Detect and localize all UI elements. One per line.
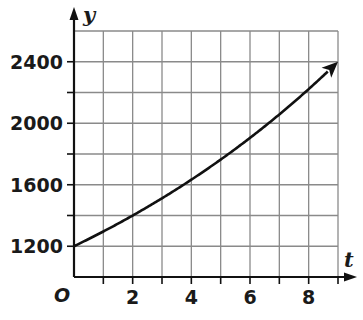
y-tick-label: 2400 [10, 51, 63, 73]
origin-label: O [54, 284, 70, 306]
x-tick-labels: 2468 [126, 286, 315, 308]
axes [70, 7, 358, 282]
data-curve [74, 72, 328, 247]
grid-lines [74, 31, 338, 277]
x-axis-arrow-icon [344, 273, 357, 282]
y-tick-label: 1600 [10, 174, 63, 196]
x-axis-label: t [344, 247, 354, 272]
x-tick-label: 4 [185, 286, 198, 308]
chart: y t O 2468 1200160020002400 [0, 0, 363, 320]
y-tick-label: 2000 [10, 112, 63, 134]
x-tick-label: 6 [243, 286, 256, 308]
y-tick-labels: 1200160020002400 [10, 51, 63, 258]
y-tick-label: 1200 [10, 235, 63, 257]
x-tick-label: 8 [302, 286, 315, 308]
y-axis-arrow-icon [70, 7, 79, 20]
y-axis-label: y [82, 2, 97, 27]
x-tick-label: 2 [126, 286, 139, 308]
